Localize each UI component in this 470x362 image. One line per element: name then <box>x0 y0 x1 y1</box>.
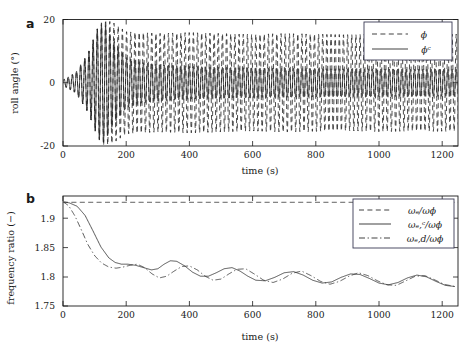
panel-a-legend-label-phi-c: ϕᶜ <box>421 44 431 55</box>
panel-a-xtick-1000: 1000 <box>367 149 391 160</box>
panel-b-xtick-400: 400 <box>181 309 199 320</box>
panel-b: b frequency ratio (−) 1.9 1.85 1.8 1.75 <box>5 191 458 342</box>
panel-a-xlabel: time (s) <box>241 165 278 176</box>
panel-b-ytick-1.8: 1.8 <box>40 271 55 282</box>
panel-b-legend-label-omega-e: ωₑ/ωϕ <box>408 205 437 216</box>
panel-b-legend-label-omega-ec: ωₑ,ᶜ/ωϕ <box>408 219 443 230</box>
panel-a-ytick-20: 20 <box>43 14 55 25</box>
panel-a-xtick-0: 0 <box>60 149 66 160</box>
panel-b-label: b <box>26 191 35 206</box>
panel-a-ylabel: roll angle (°) <box>9 52 20 114</box>
figure-svg: a roll angle (°) 20 0 -20 <box>0 0 470 362</box>
panel-b-ytick-1.85: 1.85 <box>35 242 56 253</box>
panel-b-xtick-0: 0 <box>60 309 66 320</box>
panel-a-ytick--20: -20 <box>40 140 55 151</box>
panel-b-legend-label-omega-ed: ωₑ,d/ωϕ <box>407 233 444 244</box>
panel-b-xtick-800: 800 <box>307 309 325 320</box>
panel-b-ytick-1.9: 1.9 <box>40 213 55 224</box>
panel-b-xlabel: time (s) <box>241 331 278 342</box>
panel-a-xtick-400: 400 <box>181 149 199 160</box>
panel-b-legend: ωₑ/ωϕ ωₑ,ᶜ/ωϕ ωₑ,d/ωϕ <box>353 199 454 248</box>
figure-container: a roll angle (°) 20 0 -20 <box>0 0 470 362</box>
panel-a-xtick-1200: 1200 <box>431 149 455 160</box>
panel-a: a roll angle (°) 20 0 -20 <box>9 14 458 176</box>
panel-b-xtick-1000: 1000 <box>367 309 391 320</box>
panel-b-xtick-1200: 1200 <box>431 309 455 320</box>
panel-a-label: a <box>26 16 34 31</box>
panel-b-xtick-600: 600 <box>244 309 262 320</box>
panel-a-xtick-200: 200 <box>117 149 135 160</box>
panel-a-xtick-800: 800 <box>307 149 325 160</box>
panel-a-legend: ϕ ϕᶜ <box>364 22 452 60</box>
panel-a-legend-label-phi: ϕ <box>421 29 428 40</box>
panel-a-ytick-0: 0 <box>49 77 55 88</box>
panel-b-xtick-200: 200 <box>117 309 135 320</box>
panel-a-xtick-600: 600 <box>244 149 262 160</box>
panel-a-legend-box <box>364 22 452 60</box>
panel-b-ytick-1.75: 1.75 <box>35 300 56 311</box>
panel-b-ylabel: frequency ratio (−) <box>5 211 16 304</box>
